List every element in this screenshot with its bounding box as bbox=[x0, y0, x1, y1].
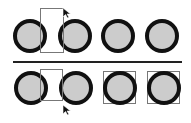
circle-4-top bbox=[145, 19, 179, 53]
selection-marquee-top bbox=[40, 8, 64, 53]
selection-marquee-bottom bbox=[40, 69, 63, 101]
circle-2-bottom bbox=[59, 71, 93, 105]
cursor-arrow-icon bbox=[62, 7, 72, 19]
circle-3-top bbox=[101, 19, 135, 53]
divider-line bbox=[13, 61, 182, 63]
cursor-arrow-icon bbox=[62, 104, 72, 116]
circle-4-bottom bbox=[147, 71, 181, 105]
circle-3-bottom bbox=[103, 71, 137, 105]
diagram-canvas bbox=[0, 0, 191, 123]
